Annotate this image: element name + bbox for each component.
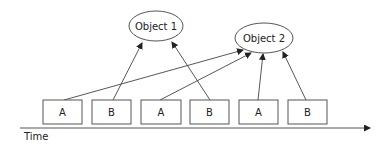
event-box-6: B — [288, 100, 327, 124]
object-node-1: Object 1 — [129, 11, 183, 41]
event-box-label: B — [206, 107, 213, 118]
time-axis: Time — [20, 128, 370, 142]
arrow-box-5-to-obj2 — [258, 54, 263, 100]
event-box-5: A — [239, 100, 278, 124]
event-box-3: A — [141, 100, 181, 124]
event-box-4: B — [190, 100, 229, 124]
event-box-label: A — [255, 107, 262, 118]
object-node-2: Object 2 — [235, 23, 293, 53]
event-box-label: B — [304, 107, 311, 118]
event-box-label: A — [59, 107, 66, 118]
arrow-box-6-to-obj2 — [283, 52, 306, 100]
event-box-label: B — [108, 107, 115, 118]
sequence-diagram: Object 1Object 2 ABABAB Time — [0, 0, 384, 151]
arrow-box-2-to-obj1 — [113, 43, 142, 100]
boxes-layer: ABABAB — [43, 100, 327, 124]
arrow-box-1-to-obj2 — [64, 50, 243, 100]
time-axis-label: Time — [23, 131, 48, 142]
event-box-2: B — [92, 100, 131, 124]
object-label: Object 1 — [135, 21, 177, 32]
event-box-label: A — [158, 107, 165, 118]
object-label: Object 2 — [243, 33, 285, 44]
objects-layer: Object 1Object 2 — [129, 11, 293, 53]
event-box-1: A — [43, 100, 82, 124]
